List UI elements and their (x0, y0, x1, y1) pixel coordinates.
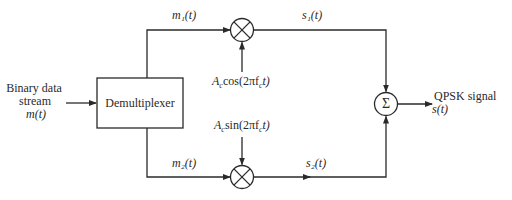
carrier-cos-label: Accos(2πfct) (212, 75, 270, 92)
summer-symbol: Σ (376, 96, 396, 112)
m2-label: m₂(t) (172, 157, 196, 170)
m1-path (147, 30, 230, 78)
carrier-sin-label: Acsin(2πfct) (214, 119, 270, 136)
s1-label: s₁(t) (302, 9, 322, 22)
m1-label: m₁(t) (172, 9, 196, 22)
s1-path (254, 30, 387, 92)
input-label: Binary data stream m(t) (2, 82, 66, 121)
input-signal-m: m(t) (2, 108, 66, 121)
mixer-bottom-icon (231, 166, 254, 189)
output-label: QPSK signal s(t) (434, 90, 496, 116)
mixer-top-icon (231, 19, 254, 42)
s2-label: s₂(t) (306, 157, 326, 170)
demultiplexer-label: Demultiplexer (97, 97, 183, 110)
output-signal-s: s(t) (432, 103, 496, 116)
